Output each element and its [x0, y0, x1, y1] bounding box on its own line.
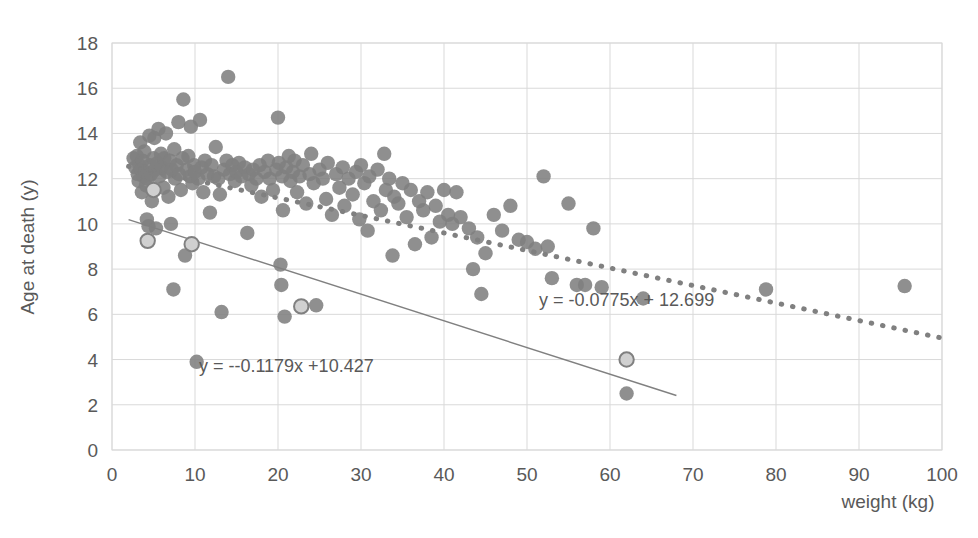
scatter-point: [193, 113, 207, 127]
scatter-point: [271, 110, 285, 124]
scatter-point: [528, 242, 542, 256]
y-axis-title: Age at death (y): [17, 179, 38, 314]
x-tick-label: 70: [682, 464, 703, 485]
scatter-point: [420, 185, 434, 199]
x-tick-label: 10: [184, 464, 205, 485]
x-tick-label: 50: [516, 464, 537, 485]
scatter-point: [586, 221, 600, 235]
scatter-point: [385, 248, 399, 262]
scatter-point: [203, 205, 217, 219]
scatter-point: [214, 305, 228, 319]
x-tick-label: 20: [267, 464, 288, 485]
scatter-chart-figure: 181614121086420 0102030405060708090100 y…: [0, 0, 978, 538]
x-tick-label: 90: [848, 464, 869, 485]
scatter-point: [478, 246, 492, 260]
x-tick-label: 0: [107, 464, 118, 485]
y-tick-label: 12: [77, 169, 98, 190]
scatter-point: [399, 210, 413, 224]
x-tick-label: 60: [599, 464, 620, 485]
scatter-point: [325, 208, 339, 222]
scatter-point: [474, 287, 488, 301]
scatter-point: [541, 239, 555, 253]
x-tick-label: 30: [350, 464, 371, 485]
scatter-point: [240, 226, 254, 240]
scatter-point: [487, 208, 501, 222]
scatter-point: [213, 187, 227, 201]
scatter-point: [429, 199, 443, 213]
scatter-point: [176, 92, 190, 106]
scatter-point: [346, 187, 360, 201]
scatter-point: [290, 185, 304, 199]
x-tick-label: 40: [433, 464, 454, 485]
scatter-point: [221, 70, 235, 84]
scatter-point: [391, 196, 405, 210]
scatter-point: [299, 196, 313, 210]
scatter-point: [277, 309, 291, 323]
scatter-point: [370, 162, 384, 176]
scatter-point: [466, 262, 480, 276]
scatter-point: [437, 183, 451, 197]
scatter-point: [166, 282, 180, 296]
scatter-point: [274, 278, 288, 292]
scatter-point: [897, 279, 911, 293]
scatter-point: [759, 282, 773, 296]
scatter-point: [164, 217, 178, 231]
y-tick-label: 2: [87, 395, 98, 416]
highlighted-scatter-point: [184, 237, 198, 251]
scatter-point: [273, 257, 287, 271]
scatter-point: [319, 192, 333, 206]
scatter-point: [382, 171, 396, 185]
trendline-equation-label: y = --0.1179x +10.427: [199, 356, 374, 376]
scatter-point: [416, 203, 430, 217]
scatter-point: [449, 185, 463, 199]
y-tick-label: 10: [77, 214, 98, 235]
highlighted-scatter-point: [619, 352, 633, 366]
scatter-point: [377, 147, 391, 161]
scatter-point: [545, 271, 559, 285]
scatter-point: [316, 171, 330, 185]
y-tick-label: 18: [77, 33, 98, 54]
x-axis-title: weight (kg): [841, 491, 935, 512]
scatter-point: [495, 223, 509, 237]
scatter-point: [196, 185, 210, 199]
x-tick-label: 100: [926, 464, 958, 485]
scatter-point: [503, 199, 517, 213]
highlighted-scatter-point: [140, 234, 154, 248]
scatter-point: [408, 237, 422, 251]
scatter-point: [470, 230, 484, 244]
scatter-point: [619, 386, 633, 400]
scatter-point: [424, 230, 438, 244]
trendline-equation-label: y = -0.0775x + 12.699: [539, 290, 714, 310]
scatter-point: [171, 115, 185, 129]
scatter-point: [536, 169, 550, 183]
y-tick-label: 16: [77, 78, 98, 99]
chart-canvas: 181614121086420 0102030405060708090100 y…: [0, 0, 978, 538]
scatter-point: [266, 183, 280, 197]
scatter-point: [159, 126, 173, 140]
y-tick-label: 0: [87, 440, 98, 461]
scatter-point: [309, 298, 323, 312]
scatter-point: [276, 203, 290, 217]
scatter-point: [304, 147, 318, 161]
scatter-point: [374, 203, 388, 217]
scatter-point: [161, 190, 175, 204]
highlighted-scatter-point: [146, 183, 160, 197]
scatter-point: [561, 196, 575, 210]
scatter-point: [209, 140, 223, 154]
scatter-point: [360, 223, 374, 237]
y-tick-label: 14: [77, 123, 99, 144]
x-tick-label: 80: [765, 464, 786, 485]
y-tick-label: 6: [87, 304, 98, 325]
y-tick-label: 4: [87, 350, 98, 371]
y-tick-label: 8: [87, 259, 98, 280]
highlighted-scatter-point: [294, 299, 308, 313]
